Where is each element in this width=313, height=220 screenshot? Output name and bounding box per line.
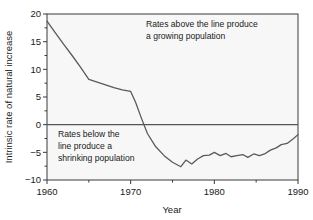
y-tick-label-5: 5 bbox=[36, 91, 41, 102]
x-tick-label-1970: 1970 bbox=[120, 186, 141, 197]
x-axis-title: Year bbox=[162, 204, 181, 215]
annotation-below-line-2: line produce a bbox=[58, 141, 112, 151]
y-axis-title: Intrinsic rate of natural increase bbox=[3, 31, 14, 164]
y-tick-label-15: 15 bbox=[30, 36, 41, 47]
annotation-above-line-1: Rates above the line produce bbox=[146, 19, 258, 29]
x-tick-label-1990: 1990 bbox=[287, 186, 308, 197]
x-tick-label-1960: 1960 bbox=[36, 186, 57, 197]
y-tick-label-20: 20 bbox=[30, 8, 41, 19]
x-tick-label-1980: 1980 bbox=[204, 186, 225, 197]
chart-figure: 20151050−5−10 1960197019801990 Intrinsic… bbox=[0, 0, 313, 220]
y-tick-label--10: −10 bbox=[25, 174, 41, 185]
y-tick-label-10: 10 bbox=[30, 64, 41, 75]
annotation-above-line-2: a growing population bbox=[146, 31, 226, 41]
line-chart: 20151050−5−10 1960197019801990 Intrinsic… bbox=[0, 0, 313, 220]
y-tick-label--5: −5 bbox=[30, 147, 41, 158]
y-tick-label-0: 0 bbox=[36, 119, 41, 130]
annotation-below-line-1: Rates below the bbox=[58, 129, 120, 139]
annotation-below-line-3: shrinking population bbox=[58, 153, 135, 163]
